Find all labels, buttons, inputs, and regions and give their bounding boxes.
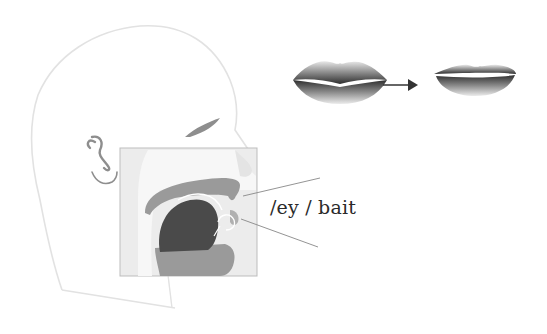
- eyebrow-shape: [185, 118, 220, 137]
- vocal-tract-inset: [120, 148, 257, 276]
- phoneme-label: /ey / bait: [270, 196, 356, 218]
- lips-neutral-icon: [293, 61, 387, 104]
- ear-icon: [88, 137, 117, 184]
- diagram-canvas: /ey / bait: [0, 0, 547, 334]
- lips-spread-icon: [434, 65, 516, 96]
- transition-arrow-icon: [383, 79, 418, 91]
